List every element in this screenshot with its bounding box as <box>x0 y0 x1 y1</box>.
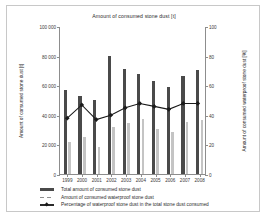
percentage-line-series <box>60 27 205 174</box>
y-axis-left-tick <box>57 175 60 176</box>
y-axis-right-title: Amount of consumed waterproof stone dust… <box>242 50 247 151</box>
x-axis-tick <box>97 174 98 177</box>
x-axis-tick-label: 2000 <box>77 178 87 183</box>
x-axis-tick <box>126 174 127 177</box>
legend-item-percentage: Percentage of waterproof stone dust in t… <box>37 201 252 208</box>
x-axis-tick-label: 2004 <box>136 178 146 183</box>
line-marker-key <box>37 201 57 208</box>
x-axis-tick <box>170 174 171 177</box>
x-axis-tick-label: 2005 <box>150 178 160 183</box>
percentage-marker <box>166 107 171 112</box>
y-axis-right-tick <box>205 86 208 87</box>
y-axis-right-tick <box>205 27 208 28</box>
percentage-marker <box>123 105 128 110</box>
percentage-marker <box>152 104 157 109</box>
percentage-marker <box>108 113 113 118</box>
x-axis-tick-label: 2003 <box>121 178 131 183</box>
percentage-line <box>67 103 198 119</box>
y-axis-right-tick-label: 0 <box>209 173 212 178</box>
dashed-bar-key <box>37 194 57 201</box>
y-axis-right-tick <box>205 57 208 58</box>
percentage-marker <box>181 101 186 106</box>
x-axis-tick-label: 2006 <box>165 178 175 183</box>
y-axis-left-tick-label: 100 000 <box>39 25 56 30</box>
y-axis-right-tick-label: 40 <box>209 113 214 118</box>
y-axis-left-tick-label: 60 000 <box>42 84 56 89</box>
x-axis-tick <box>111 174 112 177</box>
y-axis-right-tick-label: 60 <box>209 84 214 89</box>
y-axis-right-tick <box>205 145 208 146</box>
legend-item-total: Total amount of consumed stone dust <box>37 186 252 193</box>
x-axis-tick-label: 2002 <box>106 178 116 183</box>
y-axis-right-tick-label: 80 <box>209 54 214 59</box>
x-axis-tick <box>200 174 201 177</box>
percentage-marker <box>195 101 200 106</box>
plot-area: 020 00040 00060 00080 000100 000 0204060… <box>59 27 206 175</box>
chart-legend: Total amount of consumed stone dust Amou… <box>37 186 252 209</box>
x-axis-tick <box>185 174 186 177</box>
y-axis-right-tick <box>205 116 208 117</box>
x-axis-tick-label: 2007 <box>180 178 190 183</box>
y-axis-right-tick <box>205 175 208 176</box>
legend-label: Amount of consumed waterproof stone dust <box>61 195 154 200</box>
x-axis-tick <box>67 174 68 177</box>
y-axis-right-tick-label: 20 <box>209 143 214 148</box>
x-axis-tick <box>141 174 142 177</box>
x-axis-tick-label: 2001 <box>92 178 102 183</box>
chart-frame: Amount of consumed stone dust [t] Amount… <box>6 5 260 212</box>
x-axis-tick <box>82 174 83 177</box>
y-axis-left-tick-label: 0 <box>53 173 56 178</box>
x-axis-tick-label: 1999 <box>62 178 72 183</box>
y-axis-left-tick-label: 20 000 <box>42 143 56 148</box>
y-axis-right-tick-label: 100 <box>209 25 217 30</box>
y-axis-left-title: Amount of consumed stone dust [t] <box>19 64 24 138</box>
percentage-marker <box>137 101 142 106</box>
legend-item-waterproof: Amount of consumed waterproof stone dust <box>37 194 252 201</box>
chart-title: Amount of consumed stone dust [t] <box>7 13 261 19</box>
y-axis-left-tick-label: 80 000 <box>42 54 56 59</box>
legend-label: Percentage of waterproof stone dust in t… <box>61 202 209 207</box>
x-axis-tick-label: 2008 <box>195 178 205 183</box>
legend-label: Total amount of consumed stone dust <box>61 187 141 192</box>
y-axis-left-tick-label: 40 000 <box>42 113 56 118</box>
solid-bar-key <box>37 186 57 193</box>
x-axis-tick <box>156 174 157 177</box>
